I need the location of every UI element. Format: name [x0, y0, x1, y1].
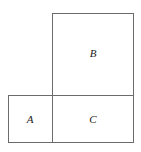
geometry-figure: B A C — [0, 0, 141, 152]
rectangle-c-label: C — [89, 114, 96, 125]
rectangle-a-label: A — [27, 114, 34, 125]
rectangle-b-label: B — [90, 48, 97, 59]
